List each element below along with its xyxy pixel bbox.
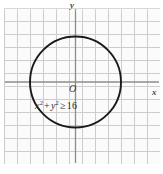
x-axis-label: x [152, 88, 157, 97]
plot-overlay [0, 0, 163, 174]
equation-plus-operator: + [43, 100, 51, 111]
origin-label: O [69, 84, 76, 94]
math-figure-circle-inequality: y x O x2+y2≥16 [0, 0, 163, 174]
equation-relation-operator: ≥ [59, 100, 67, 111]
equation-right-hand-side: 16 [67, 100, 77, 111]
inequality-label: x2+y2≥16 [35, 100, 77, 111]
y-axis-label: y [70, 1, 74, 10]
